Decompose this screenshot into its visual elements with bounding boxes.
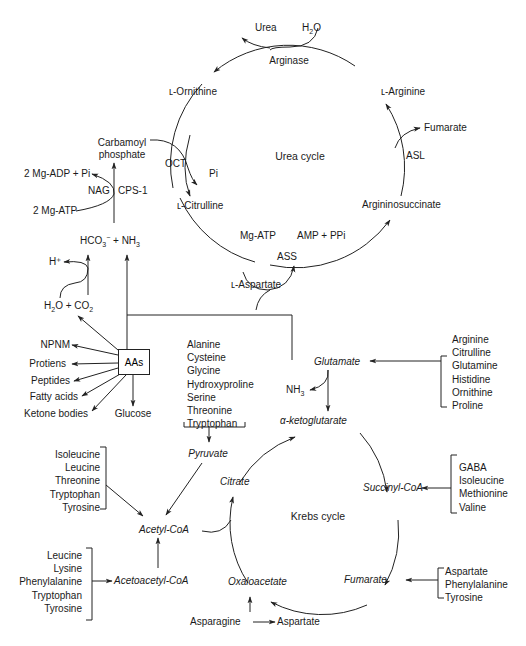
h2o-label: H2O: [302, 22, 321, 38]
aas-output-ketone-bodies: Ketone bodies: [24, 408, 88, 420]
aa-tryptophan-2: Tryptophan: [22, 488, 100, 501]
aa-tryptophan: Tryptophan: [187, 417, 254, 430]
arrow-h-plus: [60, 262, 88, 298]
h2o-co2-o: O + CO: [55, 300, 89, 311]
aas-output-npnm: NPNM: [41, 339, 70, 351]
aas-output-proteins: Protiens: [29, 358, 66, 370]
aa-lysine: Lysine: [0, 562, 82, 575]
aa-tyrosine-3: Tyrosine: [445, 591, 508, 604]
nh3-text: + NH: [110, 235, 136, 246]
aa-aspartate: Aspartate: [445, 565, 508, 578]
aa-arginine: Arginine: [452, 333, 498, 346]
aa-histidine: Histidine: [452, 373, 498, 386]
fumarate-amino-acids: Aspartate Phenylalanine Tyrosine: [445, 565, 508, 605]
pyruvate-amino-acids: Alanine Cysteine Glycine Hydroxyproline …: [187, 338, 254, 430]
urea-cycle-title: Urea cycle: [275, 150, 325, 162]
aa-hydroxyproline: Hydroxyproline: [187, 378, 254, 391]
h2o-co2-sub2: 2: [89, 306, 93, 313]
arc-to-arginine: [386, 104, 405, 196]
aas-box: AAs: [118, 349, 150, 375]
hco3-nh3-label: HCO3− + NH3: [80, 232, 140, 251]
acetyl-amino-acids: Isoleucine Leucine Threonine Tryptophan …: [22, 448, 100, 514]
aa-alanine: Alanine: [187, 338, 254, 351]
h-plus-label: H⁺: [49, 256, 61, 268]
amp-ppi-label: AMP + PPi: [297, 230, 345, 242]
acetyl-coa-label: Acetyl-CoA: [139, 524, 189, 536]
aa-leucine: Leucine: [22, 461, 100, 474]
succinyl-amino-acids: GABA Isoleucine Methionine Valine: [459, 461, 508, 514]
aa-tryptophan-3: Tryptophan: [0, 589, 82, 602]
mg-atp-2-label: 2 Mg-ATP: [33, 205, 77, 217]
aa-isoleucine-2: Isoleucine: [459, 474, 508, 487]
ornithine-label: ʟ-Ornithine: [169, 86, 217, 98]
aas-output-glucose: Glucose: [115, 408, 152, 420]
hco3-text: HCO: [80, 235, 102, 246]
aa-ornithine: Ornithine: [452, 386, 498, 399]
aa-phenylalanine: Phenylalanine: [0, 575, 82, 588]
aa-proline: Proline: [452, 399, 498, 412]
aa-serine: Serine: [187, 391, 254, 404]
nh3-sub: 3: [136, 241, 140, 248]
aspartate-krebs-label: Aspartate: [277, 616, 320, 628]
aas-label: AAs: [125, 357, 143, 368]
aa-threonine: Threonine: [187, 404, 254, 417]
asparagine-label: Asparagine: [190, 616, 241, 628]
aa-glutamine: Glutamine: [452, 359, 498, 372]
acetoacetyl-coa-label: Acetoacetyl-CoA: [114, 575, 188, 587]
acetoacetyl-amino-acids: Leucine Lysine Phenylalanine Tryptophan …: [0, 549, 82, 615]
glutamate-label: Glutamate: [314, 356, 360, 368]
asl-label: ASL: [406, 150, 425, 162]
metabolism-diagram: Urea cycle Urea H2O Arginase ʟ-Ornithine…: [0, 0, 526, 646]
aa-glycine: Glycine: [187, 364, 254, 377]
argininosuccinate-label: Argininosuccinate: [362, 199, 441, 211]
carbamoyl-label-1: Carbamoyl: [98, 137, 146, 149]
aa-tyrosine: Tyrosine: [22, 501, 100, 514]
pi-label: Pi: [209, 168, 218, 180]
aa-tyrosine-2: Tyrosine: [0, 602, 82, 615]
mg-atp-label: Mg-ATP: [240, 230, 276, 242]
arginine-label: ʟ-Arginine: [381, 86, 425, 98]
aa-isoleucine: Isoleucine: [22, 448, 100, 461]
nag-label: NAG: [88, 185, 110, 197]
aa-methionine: Methionine: [459, 487, 508, 500]
carbamoyl-label-2: phosphate: [99, 149, 146, 161]
aa-gaba: GABA: [459, 461, 508, 474]
citrate-label: Citrate: [220, 476, 249, 488]
aa-phenylalanine-2: Phenylalanine: [445, 578, 508, 591]
aas-output-fatty-acids: Fatty acids: [30, 391, 78, 403]
oxaloacetate-label: Oxaloacetate: [228, 576, 287, 588]
aa-leucine-2: Leucine: [0, 549, 82, 562]
urea-label: Urea: [255, 22, 277, 34]
nh3-glutamate-label: NH3: [286, 384, 304, 400]
succinyl-coa-label: Succinyl-CoA: [363, 482, 423, 494]
aspartate-urea-label: ʟ-Aspartate: [231, 279, 281, 291]
akg-label: α-ketoglutarate: [280, 415, 347, 427]
glutamate-amino-acids: Arginine Citrulline Glutamine Histidine …: [452, 333, 498, 412]
aa-cysteine: Cysteine: [187, 351, 254, 364]
arrow-urea: [242, 38, 270, 48]
oct-label: OCT: [165, 158, 186, 170]
aa-valine: Valine: [459, 501, 508, 514]
aa-threonine-2: Threonine: [22, 474, 100, 487]
nh3-g-text: NH: [286, 384, 300, 395]
pyruvate-label: Pyruvate: [188, 448, 227, 460]
aas-output-peptides: Peptides: [31, 375, 70, 387]
h2o-o: O: [313, 22, 321, 33]
arginase-label: Arginase: [269, 55, 308, 67]
fumarate-krebs-label: Fumarate: [344, 574, 387, 586]
krebs-cycle-title: Krebs cycle: [291, 510, 345, 522]
hco3-sub: 3: [102, 241, 106, 248]
citrulline-label: ʟ-Citrulline: [177, 200, 223, 212]
nh3-g-sub: 3: [300, 390, 304, 397]
aa-citrulline: Citrulline: [452, 346, 498, 359]
ass-label: ASS: [277, 251, 297, 263]
cps1-label: CPS-1: [118, 185, 147, 197]
h2o-co2-label: H2O + CO2: [44, 300, 93, 316]
fumarate-urea-label: Fumarate: [424, 122, 467, 134]
adp-label: 2 Mg-ADP + Pi: [24, 168, 90, 180]
